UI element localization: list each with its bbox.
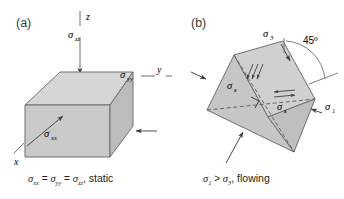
x-axis-label: x xyxy=(13,156,19,167)
cube-front-face xyxy=(25,105,110,157)
sigma-yy-symbol: σ xyxy=(120,69,126,80)
sigma-zz-symbol: σ xyxy=(68,29,74,40)
svg-text:σ1 > σ3, flowing: σ1 > σ3, flowing xyxy=(203,172,270,186)
panel-b-caption: σ1 > σ3, flowing xyxy=(203,172,270,186)
caption-b-tail: , flowing xyxy=(231,172,270,184)
sigma-yy-subscript: yy xyxy=(126,75,133,82)
sigma-1-subscript: 1 xyxy=(332,107,335,114)
z-axis-label: z xyxy=(85,11,90,22)
sigma-zz-subscript: zz xyxy=(74,35,81,42)
sigma-s-upper-symbol: σ xyxy=(227,80,233,91)
sigma-s-lower-symbol: σ xyxy=(277,101,283,112)
caption-a-tail: , static xyxy=(83,172,113,184)
caption-b-gt: > xyxy=(211,173,222,184)
sigma-xx-subscript: xx xyxy=(50,134,57,141)
sigma-1-symbol: σ xyxy=(325,101,331,112)
caption-a-eq-2: = xyxy=(61,173,72,184)
sigma-s-upper-subscript: s xyxy=(233,86,237,93)
svg-text:σxx = σyy = σzz, static: σxx = σyy = σzz, static xyxy=(28,172,113,186)
angle-45-label: 45º xyxy=(303,35,318,46)
panel-b-letter: (b) xyxy=(191,16,206,30)
sigma-3-symbol: σ xyxy=(263,28,269,39)
panel-a-caption: σxx = σyy = σzz, static xyxy=(28,172,113,186)
stress-state-figure: (a) z σ zz σ yy y xyxy=(0,0,344,199)
sigma-s-lower-subscript: s xyxy=(283,107,287,114)
sigma-xx-symbol: σ xyxy=(44,128,50,139)
caption-a-eq-1: = xyxy=(39,173,50,184)
panel-a-letter: (a) xyxy=(16,16,31,30)
y-axis-label: y xyxy=(156,64,162,75)
